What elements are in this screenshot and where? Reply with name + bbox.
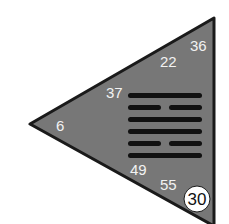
label-22: 22 <box>160 53 177 70</box>
label-36: 36 <box>190 37 207 54</box>
hexagram-line-5-broken-left <box>128 141 161 146</box>
label-6: 6 <box>56 117 64 134</box>
hexagram-number-badge: 30 <box>184 186 210 212</box>
label-49: 49 <box>130 161 147 178</box>
hexagram-line-3-solid <box>128 117 202 122</box>
hexagram-line-4-solid <box>128 129 202 134</box>
label-37: 37 <box>106 84 123 101</box>
hexagram-line-6-solid <box>128 153 202 158</box>
hexagram-diagram: 36 22 37 6 49 55 30 <box>0 0 229 224</box>
hexagram-line-2-broken-left <box>128 105 161 110</box>
badge-number: 30 <box>188 190 207 209</box>
label-55: 55 <box>160 176 177 193</box>
hexagram-line-1-solid <box>128 93 202 98</box>
hexagram-line-2-broken-right <box>169 105 202 110</box>
hexagram-line-5-broken-right <box>169 141 202 146</box>
